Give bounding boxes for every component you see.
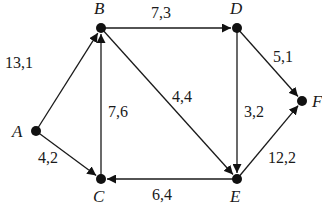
- edge-label-c-b: 7,6: [108, 103, 128, 120]
- node-f: [297, 96, 307, 106]
- edge-label-d-e: 3,2: [244, 103, 264, 120]
- edge-label-a-b: 13,1: [5, 54, 33, 71]
- edge-label-d-f: 5,1: [273, 48, 293, 65]
- node-e: [232, 174, 242, 184]
- node-d: [232, 23, 242, 33]
- node-c: [96, 174, 106, 184]
- node-a: [31, 126, 41, 136]
- node-label-e: E: [229, 187, 241, 204]
- edge-a-b: [36, 33, 98, 131]
- edge-label-e-f: 12,2: [268, 149, 296, 166]
- node-label-c: C: [93, 187, 105, 204]
- edge-label-e-c: 6,4: [152, 186, 172, 203]
- node-label-d: D: [229, 0, 243, 18]
- edge-b-e: [101, 28, 233, 175]
- node-label-b: B: [94, 0, 105, 18]
- node-b: [96, 23, 106, 33]
- labels-layer: 13,14,27,34,47,63,25,16,412,2ABCDEF: [5, 0, 322, 204]
- node-label-f: F: [311, 92, 322, 111]
- edge-label-a-c: 4,2: [38, 149, 58, 166]
- edge-label-b-e: 4,4: [172, 88, 192, 105]
- edge-label-b-d: 7,3: [151, 4, 171, 21]
- node-label-a: A: [11, 122, 23, 141]
- network-diagram: 13,14,27,34,47,63,25,16,412,2ABCDEF: [0, 0, 322, 204]
